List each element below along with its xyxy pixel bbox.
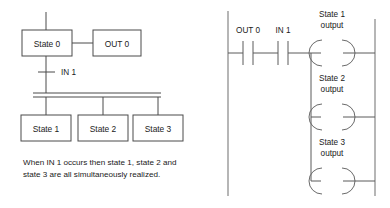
coil-state2-label-line1: State 2 <box>319 74 345 83</box>
sfc-state3-label: State 3 <box>145 124 172 134</box>
coil-state2-label-line2: output <box>321 85 344 94</box>
coil-state3-label-line2: output <box>321 149 344 158</box>
contact-out0-label: OUT 0 <box>236 26 260 35</box>
coil-state1-label-line1: State 1 <box>319 10 345 19</box>
coil-state1-label-line2: output <box>321 21 344 30</box>
sfc-state0-label: State 0 <box>34 39 61 49</box>
sfc-state1-label: State 1 <box>33 124 60 134</box>
sfc-caption-line-2: state 3 are all simultaneously realized. <box>23 170 160 179</box>
ladder-diagram: OUT 0 IN 1 State 1 output State 2 output… <box>228 10 375 196</box>
figure-canvas: State 0 OUT 0 IN 1 State 1 State 2 State… <box>0 0 390 208</box>
sfc-out0-label: OUT 0 <box>105 39 130 49</box>
sfc-caption-line-1: When IN 1 occurs then state 1, state 2 a… <box>23 158 176 167</box>
sfc-diagram: State 0 OUT 0 IN 1 State 1 State 2 State… <box>21 12 183 179</box>
contact-in1-label: IN 1 <box>275 26 290 35</box>
coil-state3-label-line1: State 3 <box>319 138 345 147</box>
sfc-transition-label: IN 1 <box>61 68 76 77</box>
sfc-state2-label: State 2 <box>90 124 117 134</box>
